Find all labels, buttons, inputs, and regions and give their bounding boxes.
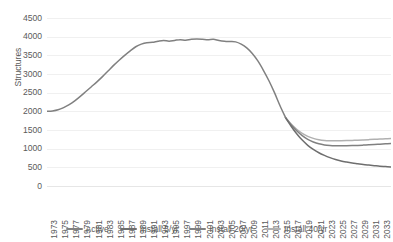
chart-legend: ActiveInstall 5/yrInstall 20/yrInstall 4… xyxy=(0,222,393,236)
series-line xyxy=(286,118,391,146)
y-axis-tick-label: 2000 xyxy=(0,107,42,116)
y-axis-tick-label: 1000 xyxy=(0,144,42,153)
y-axis-tick-label: 3000 xyxy=(0,70,42,79)
legend-swatch-icon xyxy=(189,228,206,230)
legend-swatch-icon xyxy=(120,228,137,230)
legend-label: Install 5/yr xyxy=(140,224,179,234)
legend-item[interactable]: Install 40/yr xyxy=(264,224,327,234)
legend-item[interactable]: Active xyxy=(66,224,109,234)
plot-area xyxy=(47,18,391,186)
legend-label: Active xyxy=(86,224,109,234)
legend-swatch-icon xyxy=(66,228,83,230)
y-axis-tick-label: 4000 xyxy=(0,32,42,41)
line-chart: Structures 05001000150020002500300035004… xyxy=(0,0,393,242)
series-line xyxy=(286,118,391,167)
y-axis-tick-label: 4500 xyxy=(0,14,42,23)
legend-item[interactable]: Install 20/yr xyxy=(189,224,252,234)
y-axis-tick-label: 0 xyxy=(0,182,42,191)
y-axis-tick-labels: 050010001500200025003000350040004500 xyxy=(0,0,45,242)
series-lines xyxy=(47,18,391,186)
y-axis-tick-label: 1500 xyxy=(0,126,42,135)
legend-label: Install 40/yr xyxy=(284,224,327,234)
legend-label: Install 20/yr xyxy=(209,224,252,234)
legend-item[interactable]: Install 5/yr xyxy=(120,224,179,234)
series-line xyxy=(47,39,286,118)
y-axis-tick-label: 3500 xyxy=(0,51,42,60)
y-axis-tick-label: 2500 xyxy=(0,88,42,97)
legend-swatch-icon xyxy=(264,228,281,230)
y-axis-tick-label: 500 xyxy=(0,163,42,172)
series-line xyxy=(286,118,391,141)
x-axis-tick-labels: 1973197519771979198119831985198719891991… xyxy=(47,186,391,222)
